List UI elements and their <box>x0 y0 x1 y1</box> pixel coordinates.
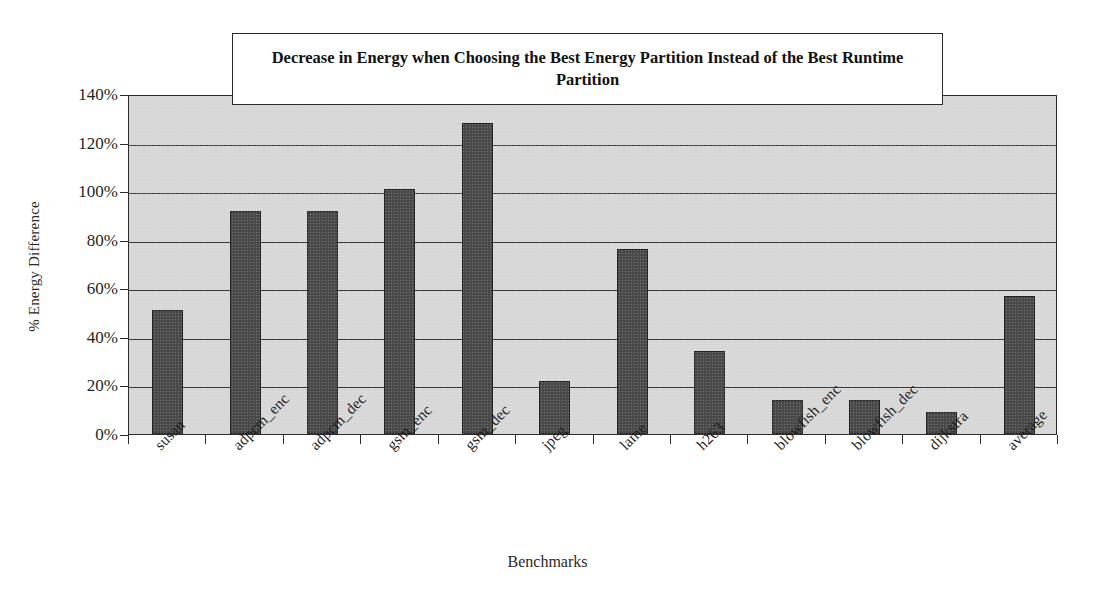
bar[interactable] <box>462 123 493 434</box>
y-axis-tick-label: 80% <box>56 232 118 249</box>
x-axis-title: Benchmarks <box>0 553 1095 571</box>
bar-slot <box>284 96 361 434</box>
y-axis-tick-label: 60% <box>56 280 118 297</box>
bar-slot <box>594 96 671 434</box>
x-axis-tick-labels: susanadpcm_encadpcm_decgsm_encgsm_decjpe… <box>128 441 1057 546</box>
plot-area <box>128 95 1057 435</box>
bar[interactable] <box>307 211 338 434</box>
y-axis-tick-label: 0% <box>56 426 118 443</box>
bar-slot <box>129 96 206 434</box>
bar[interactable] <box>384 189 415 434</box>
bar[interactable] <box>152 310 183 434</box>
bar-series <box>129 96 1056 434</box>
bar-slot <box>981 96 1058 434</box>
bar-slot <box>748 96 825 434</box>
bar-slot <box>826 96 903 434</box>
y-axis-tick-label: 120% <box>56 135 118 152</box>
x-axis-tick <box>1057 435 1058 444</box>
y-axis-tick-label: 100% <box>56 183 118 200</box>
bar-slot <box>361 96 438 434</box>
bar[interactable] <box>617 249 648 434</box>
bar-slot <box>206 96 283 434</box>
bar[interactable] <box>694 351 725 434</box>
chart-root: % Energy Difference 0%20%40%60%80%100%12… <box>0 0 1095 595</box>
bar-slot <box>516 96 593 434</box>
bar[interactable] <box>230 211 261 434</box>
chart-title: Decrease in Energy when Choosing the Bes… <box>233 47 942 91</box>
bar-slot <box>671 96 748 434</box>
y-axis-tick-labels: 0%20%40%60%80%100%120%140% <box>56 0 118 595</box>
bar-slot <box>439 96 516 434</box>
y-axis-tick-label: 20% <box>56 377 118 394</box>
y-axis-tick-label: 40% <box>56 329 118 346</box>
bar-slot <box>903 96 980 434</box>
chart-title-box: Decrease in Energy when Choosing the Bes… <box>232 33 943 105</box>
y-axis-tick-label: 140% <box>56 86 118 103</box>
y-axis-title: % Energy Difference <box>26 167 43 367</box>
